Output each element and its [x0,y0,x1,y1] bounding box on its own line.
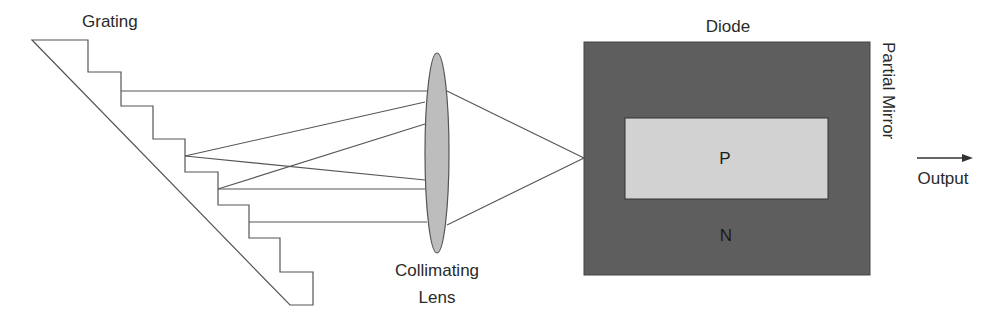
laser-diagram: Grating Collimating Lens Diode P N Parti… [0,0,1007,321]
lens-label-line1: Collimating [395,261,479,280]
p-region-label: P [719,149,730,168]
light-rays-lens-to-diode [447,91,584,225]
output-label: Output [917,169,968,188]
output-arrow-icon [917,154,973,162]
light-rays-grating-to-lens [121,91,427,222]
lens-label-line2: Lens [419,288,456,307]
collimating-lens [425,53,449,253]
grating-label: Grating [82,12,138,31]
n-region-label: N [720,226,732,245]
diode-label: Diode [706,17,750,36]
partial-mirror-label: Partial Mirror [879,42,898,140]
